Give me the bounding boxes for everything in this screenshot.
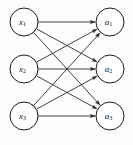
node-label-sub-a2: 2 (109, 68, 112, 74)
node-label-sub-x3: 3 (23, 115, 26, 121)
node-label-sub-a3: 3 (109, 115, 112, 121)
node-x1: x1 (10, 8, 38, 36)
node-a1: a1 (96, 8, 124, 36)
node-x3: x3 (10, 102, 38, 130)
node-x2: x2 (10, 55, 38, 83)
node-label-sub-x1: 1 (23, 21, 26, 27)
node-label-sub-a1: 1 (109, 21, 112, 27)
bipartite-graph-figure: x1x2x3a1a2a3 (0, 0, 133, 145)
node-a2: a2 (96, 55, 124, 83)
node-label-sub-x2: 2 (23, 68, 26, 74)
graph-canvas: x1x2x3a1a2a3 (0, 0, 133, 145)
edges-layer (34, 22, 100, 116)
node-a3: a3 (96, 102, 124, 130)
